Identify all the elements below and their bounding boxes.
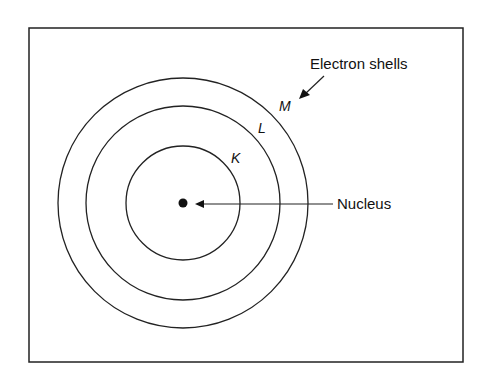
electron-shells-label: Electron shells — [310, 55, 408, 72]
shell-l-label: L — [258, 120, 266, 136]
shell-m-label: M — [279, 98, 291, 114]
shell-k-label: K — [231, 150, 240, 166]
shells-arrow-line — [305, 76, 324, 94]
nucleus-arrowhead — [195, 200, 204, 208]
frame — [29, 28, 463, 362]
nucleus-label: Nucleus — [337, 195, 391, 212]
atom-diagram — [0, 0, 485, 374]
nucleus-dot — [179, 199, 188, 208]
